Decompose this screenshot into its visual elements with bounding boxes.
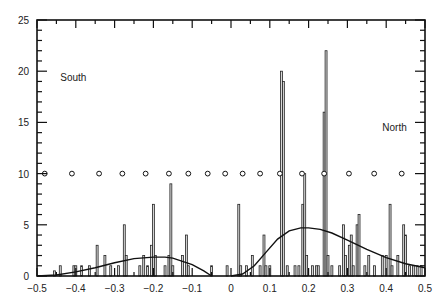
marker-circle [399, 171, 404, 176]
histogram-bar [405, 235, 407, 276]
histogram-bar [409, 266, 411, 276]
marker-circle [372, 171, 377, 176]
histogram-bar [364, 266, 366, 276]
histogram-bar [187, 266, 189, 276]
histogram-bar [96, 245, 98, 276]
x-tick-label: 0 [228, 283, 234, 294]
histogram-bar [226, 266, 228, 276]
circle-markers [42, 171, 404, 176]
marker-circle [223, 171, 228, 176]
histogram-bar [344, 256, 346, 276]
histogram-bar [381, 256, 383, 276]
histogram-bar [312, 266, 314, 276]
histogram-bar [374, 266, 376, 276]
x-tick-label: 0.5 [418, 283, 432, 294]
histogram-bar [389, 204, 391, 276]
marker-circle [277, 171, 282, 176]
histogram-bar [416, 266, 418, 276]
histogram-bar [368, 256, 370, 276]
histogram-bar [139, 266, 141, 276]
histogram-bar [317, 266, 319, 276]
x-axis-ticks [37, 20, 425, 276]
histogram-bar [147, 266, 149, 276]
histogram-bars [53, 51, 422, 276]
x-tick-label: −0.5 [27, 283, 47, 294]
y-axis-ticks [37, 20, 425, 276]
marker-circle [205, 171, 210, 176]
histogram-bar [331, 266, 333, 276]
histogram-bar [339, 266, 341, 276]
x-tick-label: 0.3 [340, 283, 354, 294]
histogram-bar [282, 81, 284, 276]
histogram-bar [118, 266, 120, 276]
y-tick-label: 20 [18, 66, 30, 77]
y-axis-labels: 0510152025 [18, 15, 30, 282]
histogram-bar [164, 266, 166, 276]
x-tick-label: 0.1 [263, 283, 277, 294]
y-tick-label: 0 [23, 271, 29, 282]
histogram-bar [182, 256, 184, 276]
marker-circle [347, 171, 352, 176]
histogram-bar [251, 256, 253, 276]
histogram-bar [259, 266, 261, 276]
x-tick-label: 0.2 [302, 283, 316, 294]
marker-circle [143, 171, 148, 176]
x-tick-label: 0.4 [379, 283, 393, 294]
marker-circle [240, 171, 245, 176]
histogram-bar [294, 266, 296, 276]
marker-circle [258, 171, 263, 176]
histogram-bar [352, 266, 354, 276]
annotation-north-label: North [382, 122, 406, 133]
x-tick-label: −0.3 [105, 283, 125, 294]
marker-circle [97, 171, 102, 176]
y-tick-label: 10 [18, 169, 30, 180]
histogram-bar [397, 256, 399, 276]
marker-circle [120, 171, 125, 176]
histogram-bar [238, 204, 240, 276]
histogram-bar [306, 256, 308, 276]
histogram-bar [88, 266, 90, 276]
x-tick-label: −0.2 [144, 283, 164, 294]
y-tick-label: 25 [18, 15, 30, 26]
histogram-bar [110, 266, 112, 276]
histogram-bar [286, 266, 288, 276]
marker-circle [300, 171, 305, 176]
histogram-bar [298, 266, 300, 276]
marker-circle [167, 171, 172, 176]
y-tick-label: 5 [23, 220, 29, 231]
histogram-chart: −0.5−0.4−0.3−0.2−0.100.10.20.30.40.5 051… [0, 0, 448, 304]
marker-circle [322, 171, 327, 176]
histogram-bar [391, 266, 393, 276]
x-tick-label: −0.1 [182, 283, 202, 294]
histogram-bar [170, 184, 172, 276]
plot-frame [37, 20, 425, 276]
histogram-bar [325, 51, 327, 276]
y-tick-label: 15 [18, 117, 30, 128]
histogram-bar [412, 266, 414, 276]
annotations: SouthNorth [60, 72, 406, 132]
marker-circle [186, 171, 191, 176]
x-axis-labels: −0.5−0.4−0.3−0.2−0.100.10.20.30.40.5 [27, 283, 432, 294]
marker-circle [70, 171, 75, 176]
histogram-bar [265, 266, 267, 276]
histogram-bar [125, 256, 127, 276]
histogram-bar [154, 256, 156, 276]
x-tick-label: −0.4 [66, 283, 86, 294]
annotation-south-label: South [60, 72, 86, 83]
